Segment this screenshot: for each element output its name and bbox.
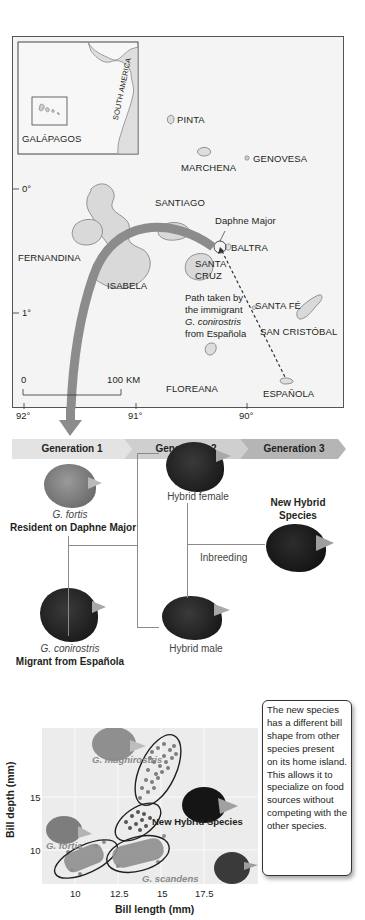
y-axis-title: Bill depth (mm) bbox=[4, 762, 16, 838]
island-label-marchena: MARCHENA bbox=[181, 162, 236, 173]
gen2-bracket-vertical bbox=[137, 453, 138, 628]
island-label-baltra: BALTRA bbox=[231, 242, 268, 253]
island-label-santa: SANTA bbox=[195, 258, 226, 269]
generation-1-label: Generation 1 bbox=[22, 443, 122, 454]
island-label-pinta: PINTA bbox=[177, 114, 205, 125]
g-conirostris-bird-image bbox=[40, 588, 98, 642]
path-note-species: G. conirostris bbox=[185, 316, 246, 328]
path-note: Path taken by the immigrant G. conirostr… bbox=[185, 292, 246, 340]
island-label-isabela: ISABELA bbox=[107, 280, 147, 291]
daphne-major-label: Daphne Major bbox=[215, 215, 276, 226]
x-tick-12-5: 12.5 bbox=[110, 888, 129, 899]
explanation-callout: The new species has a different bill sha… bbox=[262, 700, 352, 876]
inset-galapagos-label: GALÁPAGOS bbox=[22, 133, 81, 144]
new-hybrid-species-title-line2: Species bbox=[258, 510, 338, 521]
map-graphics bbox=[13, 37, 345, 409]
inbreeding-label: Inbreeding bbox=[200, 552, 247, 563]
resident-label: Resident on Daphne Major bbox=[0, 522, 146, 533]
path-note-line2: the immigrant bbox=[185, 304, 246, 316]
island-label-espanola: ESPAÑOLA bbox=[263, 388, 314, 399]
g-conirostris-beak bbox=[92, 601, 106, 613]
island-label-santiago: SANTIAGO bbox=[155, 197, 205, 208]
galapagos-map: GALÁPAGOS SOUTH AMERICA PINTA MARCHENA G… bbox=[12, 36, 344, 408]
migration-arrow-head bbox=[56, 408, 86, 438]
hybrid-female-label: Hybrid female bbox=[148, 491, 248, 502]
x-tick-17-5: 17.5 bbox=[195, 888, 214, 899]
gen1-vertical-line bbox=[68, 536, 69, 636]
gen1-horizontal-line bbox=[68, 545, 138, 546]
longitude-90: 90° bbox=[239, 410, 253, 421]
g-fortis-beak bbox=[88, 477, 102, 489]
x-axis-title: Bill length (mm) bbox=[115, 903, 194, 915]
x-tick-15: 15 bbox=[157, 888, 168, 899]
island-label-santa-fe: SANTA FÉ bbox=[255, 300, 301, 311]
scale-start: 0 bbox=[21, 374, 26, 385]
g-scandens-chart-label: G. scandens bbox=[142, 873, 199, 884]
island-label-san-cristobal: SAN CRISTÓBAL bbox=[260, 326, 337, 337]
island-label-floreana: FLOREANA bbox=[166, 383, 218, 394]
latitude-1: 1° bbox=[22, 307, 31, 318]
longitude-92: 92° bbox=[16, 410, 30, 421]
x-tick-10: 10 bbox=[70, 888, 81, 899]
gen2-bracket-bottom bbox=[137, 627, 159, 628]
hybrid-female-beak bbox=[216, 450, 231, 462]
y-tick-15: 15 bbox=[30, 792, 41, 803]
island-label-fernandina: FERNANDINA bbox=[18, 252, 81, 263]
g-magnirostris-label: G. magnirostris bbox=[92, 754, 162, 765]
generation-3-label: Generation 3 bbox=[248, 443, 340, 454]
y-tick-10: 10 bbox=[30, 845, 41, 856]
new-hybrid-species-title-line1: New Hybrid bbox=[258, 497, 338, 508]
hybrid-male-label: Hybrid male bbox=[146, 643, 246, 654]
gen2-vertical-line bbox=[187, 503, 188, 598]
path-note-line1: Path taken by bbox=[185, 292, 246, 304]
bill-size-scatter-chart: G. magnirostris New Hybrid Species G. fo… bbox=[42, 728, 258, 884]
callout-text: The new species has a different bill sha… bbox=[267, 704, 347, 831]
new-hybrid-species-chart-label: New Hybrid Species bbox=[152, 816, 243, 827]
g-fortis-species-label: G. fortis bbox=[20, 509, 120, 520]
island-label-genovesa: GENOVESA bbox=[253, 153, 307, 164]
g-fortis-chart-label: G. fortis bbox=[46, 840, 82, 851]
hybrid-male-beak bbox=[214, 604, 230, 616]
g-conirostris-species-label: G. conirostris bbox=[20, 643, 120, 654]
hybrid-male-bird-image bbox=[162, 596, 222, 640]
inbreeding-line bbox=[187, 544, 265, 545]
new-hybrid-species-beak bbox=[316, 535, 334, 551]
scatter-plot-area bbox=[42, 728, 258, 884]
scale-end: 100 KM bbox=[107, 374, 140, 385]
migrant-label: Migrant from Española bbox=[0, 656, 140, 667]
longitude-91: 91° bbox=[128, 410, 142, 421]
gen2-bracket-top bbox=[137, 453, 159, 454]
island-label-cruz: CRUZ bbox=[195, 270, 222, 281]
latitude-0: 0° bbox=[22, 183, 31, 194]
path-note-line4: from Española bbox=[185, 328, 246, 340]
